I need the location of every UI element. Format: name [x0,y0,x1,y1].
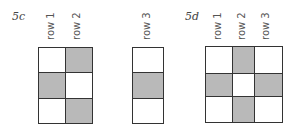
grid-5c-rows-1-2 [38,47,93,124]
grid-5d [205,46,283,123]
grid-cell [39,48,65,72]
grid-cell [133,48,163,72]
grid-cell [255,97,282,122]
column-label-row-2: row 2 [237,12,247,40]
grid-5c-row-3 [132,47,164,124]
grid-cell [39,99,65,123]
grid-cell [206,47,232,73]
grid-cell-filled [233,97,254,122]
column-label-row-1: row 1 [46,12,56,40]
grid-cell [133,99,163,123]
figure-label-5c: 5c [12,11,25,22]
column-label-row-3: row 3 [142,12,152,40]
grid-cell [233,74,254,96]
grid-cell [206,97,232,122]
grid-cell [255,47,282,73]
grid-cell-filled [133,73,163,97]
grid-cell-filled [233,47,254,73]
column-label-row-1: row 1 [213,12,223,40]
grid-cell-filled [255,74,282,96]
column-label-row-3: row 3 [261,12,271,40]
grid-cell-filled [39,73,65,97]
grid-cell [66,73,92,97]
grid-cell-filled [66,48,92,72]
column-label-row-2: row 2 [72,12,82,40]
grid-cell-filled [206,74,232,96]
grid-cell-filled [66,99,92,123]
figure-label-5d: 5d [185,11,199,22]
